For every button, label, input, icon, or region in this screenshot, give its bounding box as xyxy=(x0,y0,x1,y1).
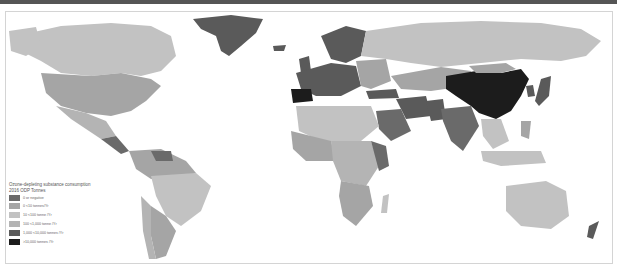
region-central-africa xyxy=(331,141,379,186)
region-philippines xyxy=(521,121,531,139)
header-bar xyxy=(0,0,617,4)
region-southeast-asia xyxy=(481,119,509,149)
region-iberia xyxy=(291,89,313,103)
legend-item: 100 <1,000 tonne /Yr xyxy=(9,220,139,228)
region-russia xyxy=(361,21,601,67)
region-australia xyxy=(506,181,569,229)
legend-label: >10,000 tonnes /Yr xyxy=(23,240,53,244)
region-southern-africa xyxy=(339,181,373,226)
legend-item: 10 <100 tonne /Yr xyxy=(9,211,139,219)
map-legend: Ozone-depleting substance consumption 20… xyxy=(9,182,139,246)
legend-item: 1,000 <10,000 tonnes /Yr xyxy=(9,229,139,237)
region-turkey xyxy=(366,89,399,99)
region-india xyxy=(441,106,479,151)
region-usa xyxy=(41,73,161,116)
region-scandinavia xyxy=(321,26,366,63)
region-central-america xyxy=(101,136,129,154)
region-canada xyxy=(16,23,176,76)
legend-swatch xyxy=(9,203,20,209)
legend-swatch xyxy=(9,212,20,218)
legend-label: 0 or negative xyxy=(23,196,44,200)
region-korea xyxy=(526,85,535,97)
map-frame[interactable]: Ozone-depleting substance consumption 20… xyxy=(5,11,613,264)
region-madagascar xyxy=(381,194,389,213)
legend-item: >10,000 tonnes /Yr xyxy=(9,237,139,245)
legend-label: 1,000 <10,000 tonnes /Yr xyxy=(23,231,63,235)
legend-title-line2: 2016 ODP Tonnes xyxy=(9,188,139,194)
legend-label: 0 <10 tonnes/Yr xyxy=(23,204,48,208)
region-iceland xyxy=(273,45,286,51)
legend-label: 10 <100 tonne /Yr xyxy=(23,213,52,217)
region-eastern-europe xyxy=(356,59,391,89)
legend-item: 0 or negative xyxy=(9,194,139,202)
region-japan xyxy=(535,76,551,106)
legend-item: 0 <10 tonnes/Yr xyxy=(9,202,139,210)
legend-swatch xyxy=(9,230,20,236)
legend-label: 100 <1,000 tonne /Yr xyxy=(23,222,57,226)
region-indonesia xyxy=(481,151,546,166)
legend-swatch xyxy=(9,195,20,201)
legend-swatch xyxy=(9,239,20,245)
legend-swatch xyxy=(9,221,20,227)
region-new-zealand xyxy=(587,221,599,239)
region-greenland xyxy=(193,15,263,56)
